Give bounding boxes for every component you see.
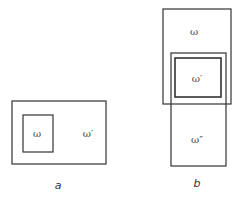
diagram-canvas: ω ω′ a ω ω′ ω″ b [0,0,236,198]
caption-a: a [55,179,62,192]
label-omega: ω [33,128,41,139]
figure-b: ω ω′ ω″ b [163,9,231,190]
lower-region-omega-double-prime [171,53,226,166]
label-omega-prime: ω′ [83,128,94,139]
figure-a: ω ω′ a [12,101,106,192]
caption-b: b [194,177,201,190]
label-omega-double-prime: ω″ [191,134,203,145]
label-omega-prime: ω′ [192,73,203,84]
label-omega: ω [190,26,198,37]
